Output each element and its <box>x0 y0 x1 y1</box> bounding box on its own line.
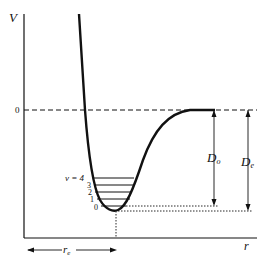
de-arrowhead-bottom <box>246 204 251 211</box>
re-label: re <box>63 243 70 257</box>
de-label: De <box>240 154 254 170</box>
d0-label: Do <box>206 150 220 166</box>
y-axis-label: V <box>9 10 19 25</box>
re-arrowhead-left <box>27 248 34 253</box>
potential-curve <box>79 14 215 211</box>
vibrational-levels <box>93 178 134 206</box>
d0-arrowhead-bottom <box>212 199 217 206</box>
zero-label: 0 <box>15 105 20 115</box>
x-axis-label: r <box>244 239 249 253</box>
quantum-number-label: v = 4 <box>65 173 85 183</box>
de-arrowhead-top <box>246 110 251 117</box>
level-label-0: 0 <box>94 203 98 212</box>
potential-energy-diagram: V 0 r v = 4 3 2 1 0 Do De re <box>0 0 266 263</box>
re-arrowhead-right <box>110 248 117 253</box>
